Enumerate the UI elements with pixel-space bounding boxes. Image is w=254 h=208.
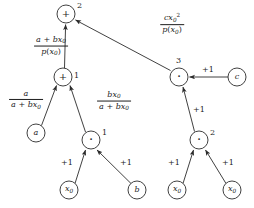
fraction-cx0sq-over-px0: cx02 p(x0) (160, 12, 184, 36)
edge-label-x0r2-to-mul2: +1 (222, 159, 234, 167)
fraction-denominator: p(x0) (160, 25, 184, 36)
term-x-subscript: 0 (62, 38, 66, 44)
edge-a-to-add1 (42, 86, 57, 126)
term-x-subscript: 0 (125, 105, 129, 111)
node-label-add2: + (62, 9, 70, 19)
node-label-a: a (34, 129, 39, 137)
x-subscript: 0 (177, 188, 181, 194)
fraction-a-over-a-plus-bx0: a a + bx0 (9, 89, 43, 111)
paren-close: ) (179, 25, 182, 34)
plus-sign: + (43, 35, 50, 44)
node-label-c: c (235, 73, 239, 81)
node-label-b: b (134, 186, 139, 194)
node-index-add2: 2 (77, 2, 82, 10)
paren-close: ) (58, 46, 61, 55)
node-label-mul3: · (177, 70, 181, 83)
edge-label-c-to-mul3: +1 (202, 66, 214, 74)
node-label-x0-right1: x0 (173, 185, 181, 194)
node-label-x0-right2: x0 (228, 185, 236, 194)
node-label-add1: + (59, 72, 67, 82)
plus-sign: + (106, 101, 113, 110)
node-label-x0-left: x0 (65, 185, 73, 194)
edge-label-b-to-mul1: +1 (120, 159, 132, 167)
term-x-subscript: 0 (117, 93, 121, 99)
edge-label-mul2-to-mul3: +1 (193, 106, 205, 114)
node-index-mul3: 3 (176, 57, 181, 65)
fraction-numerator: bx0 (97, 90, 131, 102)
plus-sign: + (18, 100, 25, 109)
term-a: a (11, 100, 16, 109)
node-index-mul2: 2 (210, 129, 215, 137)
edge-label-add1-to-add2: a + bx0 p(x0) (34, 35, 68, 58)
term-a: a (24, 89, 29, 98)
fraction-a-plus-bx0-over-px0: a + bx0 p(x0) (34, 35, 68, 58)
fraction-denominator: p(x0) (34, 46, 68, 57)
x-subscript: 0 (232, 188, 236, 194)
fraction-numerator: a (9, 89, 43, 100)
term-x-superscript: 2 (177, 12, 181, 18)
node-label-mul2: · (197, 133, 201, 146)
edge-label-x0r1-to-mul2: +1 (168, 159, 180, 167)
edge-label-mul1-to-add1: bx0 a + bx0 (97, 90, 131, 113)
node-index-add1: 1 (74, 72, 79, 80)
edge-label-x0l-to-mul1: +1 (61, 159, 73, 167)
edge-x0l-to-mul1 (75, 150, 86, 184)
term-a: a (36, 35, 41, 44)
edge-mul3-to-add2 (76, 20, 171, 71)
term-x-subscript: 0 (37, 104, 41, 110)
node-index-mul1: 1 (102, 129, 107, 137)
x-subscript: 0 (69, 188, 73, 194)
fraction-denominator: a + bx0 (97, 101, 131, 112)
fraction-denominator: a + bx0 (9, 100, 43, 111)
diagram-canvas: + 2 + 1 · 3 · 1 · 2 a c b x0 x0 x0 a + b… (0, 0, 254, 208)
edge-x0r1-to-mul2 (183, 150, 194, 184)
node-label-mul1: · (89, 133, 93, 146)
fraction-bx0-over-a-plus-bx0: bx0 a + bx0 (97, 90, 131, 113)
edge-label-mul3-to-add2: cx02 p(x0) (160, 12, 184, 36)
fraction-numerator: a + bx0 (34, 35, 68, 47)
edge-label-a-to-add1: a a + bx0 (9, 89, 43, 111)
edge-mul1-to-add1 (70, 86, 86, 133)
term-a: a (99, 101, 104, 110)
fraction-numerator: cx02 (160, 12, 184, 25)
